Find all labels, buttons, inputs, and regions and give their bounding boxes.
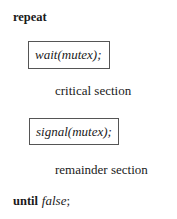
wait-arg: mutex	[62, 47, 93, 62]
signal-function-name: signal	[36, 124, 68, 139]
until-condition: false	[42, 193, 67, 208]
entry-section-box: wait(mutex);	[28, 41, 110, 69]
wait-function-name: wait	[35, 47, 57, 62]
exit-section-box: signal(mutex);	[29, 118, 119, 145]
close-paren: );	[103, 124, 112, 139]
until-terminator: ;	[66, 193, 70, 208]
wait-call: wait(mutex);	[35, 47, 101, 63]
until-keyword: until	[13, 194, 38, 208]
signal-arg: mutex	[72, 124, 103, 139]
critical-section-label: critical section	[55, 84, 131, 98]
close-paren: );	[93, 47, 102, 62]
until-line: until false;	[13, 194, 70, 208]
signal-call: signal(mutex);	[36, 124, 112, 140]
remainder-section-label: remainder section	[55, 163, 148, 177]
repeat-keyword: repeat	[13, 10, 47, 24]
